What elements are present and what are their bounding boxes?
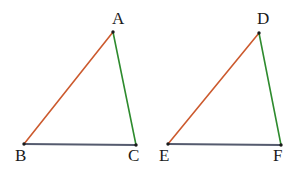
vertex-label-e: E <box>159 147 169 164</box>
edge-BC <box>24 144 136 145</box>
vertex-label-b: B <box>15 147 26 164</box>
vertex-label-d: D <box>257 10 269 27</box>
vertex-label-f: F <box>273 147 282 164</box>
vertex-dot-A <box>111 30 114 33</box>
geometry-figure: A B C D E F <box>0 0 305 174</box>
vertex-label-a: A <box>112 10 124 27</box>
edge-EF <box>168 144 281 145</box>
vertex-label-c: C <box>128 147 139 164</box>
vertex-dot-D <box>257 31 260 34</box>
